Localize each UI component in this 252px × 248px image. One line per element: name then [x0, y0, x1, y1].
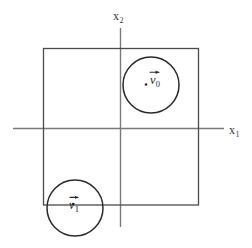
vector-label-v0-subscript: 0 [156, 79, 161, 89]
x2-axis-label-subscript: 2 [119, 16, 123, 25]
vector-diagram-figure: x2 x1 v0 v1 [0, 0, 252, 248]
x1-axis-label: x1 [229, 124, 239, 139]
x1-axis-label-subscript: 1 [235, 130, 239, 139]
figure-canvas [0, 0, 252, 248]
vector-label-v1-subscript: 1 [75, 204, 80, 214]
center-dot-v0 [145, 83, 148, 86]
vector-label-v1: v1 [69, 199, 79, 213]
vector-label-v0-base: v [150, 73, 156, 87]
x2-axis-label: x2 [113, 10, 123, 25]
vector-label-v0: v0 [150, 74, 160, 88]
vector-label-v1-base: v [69, 198, 75, 212]
